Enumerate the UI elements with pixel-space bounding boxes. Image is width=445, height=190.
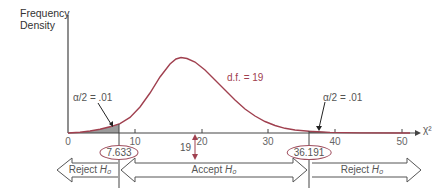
accept-hyp: H₀: [225, 164, 236, 175]
df-label: d.f. = 19: [227, 72, 263, 84]
critical-value-right: 36.191: [287, 145, 332, 160]
critical-value-left: 7.633: [99, 145, 138, 160]
tick-10: 10: [129, 136, 140, 147]
mean-label: 19: [180, 142, 191, 154]
alpha-right-pointer: [319, 102, 325, 128]
y-label-line1: Frequency: [20, 7, 70, 19]
tick-50: 50: [396, 136, 407, 147]
reject-right-label: Reject H₀: [341, 164, 384, 175]
tick-0: 0: [65, 136, 71, 147]
alpha-left-label: α/2 = .01: [73, 92, 112, 104]
alpha-right-label: α/2 = .01: [323, 92, 362, 104]
accept-text: Accept: [192, 164, 223, 175]
reject-left-label: Reject H₀: [69, 164, 112, 175]
alpha-left-pointer: [98, 103, 111, 124]
tick-40: 40: [329, 136, 340, 147]
y-axis-label: Frequency Density: [20, 7, 70, 31]
tick-30: 30: [262, 136, 273, 147]
reject-left-hyp: H₀: [100, 164, 111, 175]
reject-left-text: Reject: [69, 164, 97, 175]
accept-label: Accept H₀: [192, 164, 237, 175]
y-label-line2: Density: [20, 19, 70, 31]
x-axis-arrowhead: [415, 130, 421, 136]
reject-right-text: Reject: [341, 164, 369, 175]
reject-right-hyp: H₀: [372, 164, 383, 175]
x-axis-label: χ²: [423, 124, 432, 136]
tick-20: 20: [196, 136, 207, 147]
